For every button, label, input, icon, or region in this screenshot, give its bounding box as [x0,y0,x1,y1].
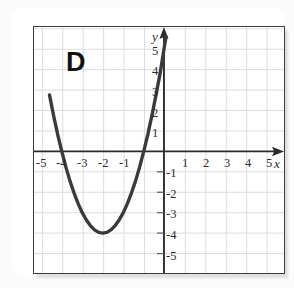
screenshot-root: -5 -4 -3 -2 -1 1 2 3 4 5 5 4 3 2 1 -1 -2 [0,0,294,288]
answer-choice-card: -5 -4 -3 -2 -1 1 2 3 4 5 5 4 3 2 1 -1 -2 [12,8,284,276]
x-tick-5: 5 [266,157,272,170]
answer-choice-letter: D [66,49,86,76]
y-tick--4: -4 [166,229,176,242]
y-tick--5: -5 [166,250,176,263]
y-tick--3: -3 [166,208,176,221]
x-tick-2: 2 [203,157,209,170]
y-tick-3: 3 [152,86,158,99]
y-tick-2: 2 [152,107,158,120]
x-tick-1: 1 [182,157,188,170]
y-axis-label: y [152,30,158,43]
x-axis-label: x [274,157,280,170]
y-tick-4: 4 [152,65,158,78]
y-tick-5: 5 [152,45,158,58]
y-tick-1: 1 [152,127,158,140]
x-tick--3: -3 [77,157,87,170]
x-tick-4: 4 [245,157,251,170]
y-tick--1: -1 [166,167,176,180]
x-tick--2: -2 [98,157,108,170]
x-tick--4: -4 [56,157,66,170]
coordinate-plane: -5 -4 -3 -2 -1 1 2 3 4 5 5 4 3 2 1 -1 -2 [33,26,285,274]
x-tick--5: -5 [36,157,46,170]
x-tick--1: -1 [119,157,129,170]
x-tick-3: 3 [224,157,230,170]
y-tick--2: -2 [166,188,176,201]
